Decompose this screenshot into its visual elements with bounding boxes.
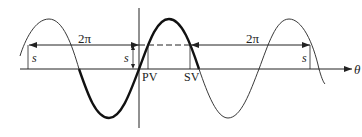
s-label-right: s bbox=[302, 52, 307, 64]
period-label-left: 2π bbox=[78, 32, 91, 45]
sv-label: SV bbox=[184, 71, 199, 83]
diagram-graphics bbox=[0, 0, 362, 137]
s-label-center: s bbox=[124, 52, 129, 64]
theta-label: θ bbox=[354, 63, 360, 76]
s-label-left: s bbox=[32, 52, 37, 64]
sine-diagram: 2π 2π s s s PV SV θ bbox=[0, 0, 362, 137]
pv-label: PV bbox=[142, 71, 157, 83]
period-label-right: 2π bbox=[246, 32, 259, 45]
